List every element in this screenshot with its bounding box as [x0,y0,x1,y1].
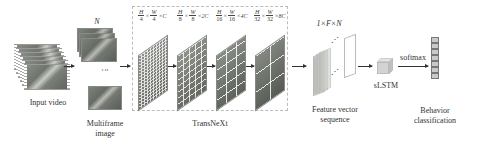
video-frame [24,64,70,90]
arrow-softmax [398,66,428,67]
behavior-label-line1: Behavior [405,106,465,116]
slstm-label: sLSTM [368,81,404,91]
stage1-dims: H4 × W4 ×C [138,9,166,22]
feature-label-line1: Feature vector [305,105,365,115]
multiframe-stack [77,28,119,62]
arrow-multiframe-to-backbone [120,66,130,67]
arrow-stage3-to-4 [246,66,254,67]
feature-dims-label: 1×F×N [314,19,344,29]
multiframe-label-line2: image [80,129,130,139]
arrow-stage1-to-2 [168,66,176,67]
arrow-stage2-to-3 [207,66,215,67]
input-video-stack [14,44,74,90]
classification-vector [431,37,439,85]
transnext-label: TransNeXt [185,119,235,129]
slstm-cube [377,58,395,76]
feature-vector-last [344,34,356,78]
frame-count-label: N [92,17,102,27]
frame-last [88,86,122,110]
arrow-input-to-multiframe [64,66,74,67]
input-video-label: Input video [18,98,78,108]
stage3-dims: H16 × W16 ×4C [216,9,247,22]
arrow-backbone-to-features [292,66,306,67]
arrow-features-to-slstm [358,66,372,67]
feature-label-line2: sequence [305,115,365,125]
diagonal-ellipsis-bottom: ⋰ [331,68,339,76]
frame [81,38,117,62]
multiframe-label-line1: Multiframe [80,119,130,129]
softmax-label: softmax [395,53,431,63]
behavior-label-line2: classification [405,116,465,126]
stage4-dims: H32 × W32 ×8C [254,9,285,22]
feature-vector-stack [319,48,331,92]
diagonal-ellipsis-top: ⋰ [331,36,339,44]
vertical-ellipsis: ⋮ [101,66,109,74]
stage2-dims: H8 × W8 ×2C [177,9,208,22]
